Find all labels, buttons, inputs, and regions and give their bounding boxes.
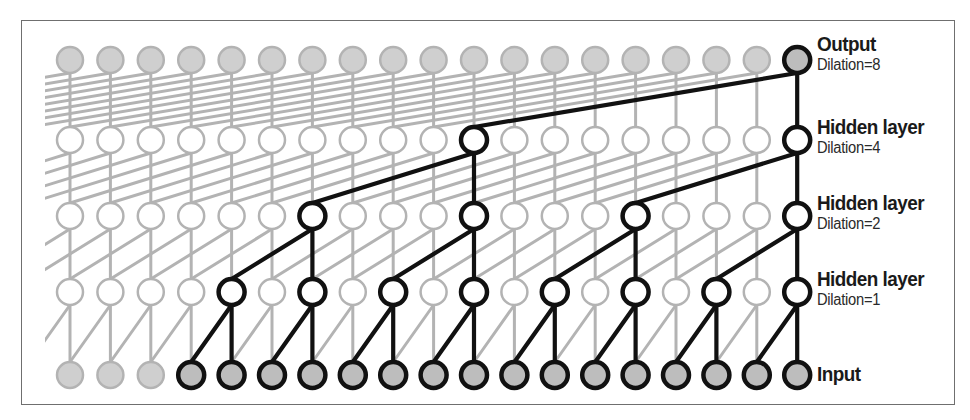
- hidden4-node: [421, 127, 447, 153]
- active-input-node: [542, 362, 568, 388]
- output-node: [663, 47, 689, 73]
- hidden2-node: [178, 203, 204, 229]
- hidden4-node: [380, 127, 406, 153]
- active-hidden1-node: [380, 279, 406, 305]
- hidden2-node: [703, 203, 729, 229]
- hidden2-node: [501, 203, 527, 229]
- output-node: [623, 47, 649, 73]
- hidden2-node: [138, 203, 164, 229]
- active-hidden4-node: [784, 127, 810, 153]
- hidden4-node: [340, 127, 366, 153]
- output-node: [542, 47, 568, 73]
- hidden4-node: [138, 127, 164, 153]
- input-node: [57, 362, 83, 388]
- label-output: Output Dilation=8: [817, 33, 886, 75]
- diagram-canvas: Output Dilation=8 Hidden layer Dilation=…: [0, 0, 970, 420]
- hidden2-node: [57, 203, 83, 229]
- hidden4-node: [582, 127, 608, 153]
- hidden4-node: [501, 127, 527, 153]
- active-input-node: [421, 362, 447, 388]
- active-input-node: [461, 362, 487, 388]
- hidden1-node: [138, 279, 164, 305]
- active-input-node: [299, 362, 325, 388]
- hidden4-node: [178, 127, 204, 153]
- hidden4-node: [623, 127, 649, 153]
- active-input-node: [340, 362, 366, 388]
- active-hidden2-node: [623, 203, 649, 229]
- active-hidden1-node: [703, 279, 729, 305]
- active-hidden1-node: [299, 279, 325, 305]
- active-hidden1-node: [623, 279, 649, 305]
- active-input-node: [380, 362, 406, 388]
- active-input-node: [744, 362, 770, 388]
- active-hidden2-node: [299, 203, 325, 229]
- active-input-node: [784, 362, 810, 388]
- output-node: [703, 47, 729, 73]
- layer-dilation: Dilation=1: [817, 290, 926, 310]
- hidden2-node: [259, 203, 285, 229]
- label-hidden-dilation-2: Hidden layer Dilation=2: [817, 192, 936, 234]
- layer-dilation: Dilation=2: [817, 214, 926, 234]
- label-hidden-dilation-1: Hidden layer Dilation=1: [817, 268, 936, 310]
- output-node: [57, 47, 83, 73]
- hidden4-node: [542, 127, 568, 153]
- hidden2-node: [380, 203, 406, 229]
- active-hidden1-node: [219, 279, 245, 305]
- hidden1-node: [97, 279, 123, 305]
- active-input-node: [582, 362, 608, 388]
- layer-dilation: Dilation=8: [817, 55, 880, 75]
- layer-dilation: Dilation=4: [817, 138, 926, 158]
- active-input-node: [703, 362, 729, 388]
- label-input: Input: [817, 363, 865, 385]
- hidden4-node: [299, 127, 325, 153]
- active-input-node: [259, 362, 285, 388]
- hidden2-node: [582, 203, 608, 229]
- hidden2-node: [542, 203, 568, 229]
- hidden2-node: [340, 203, 366, 229]
- label-hidden-dilation-4: Hidden layer Dilation=4: [817, 116, 936, 158]
- hidden1-node: [178, 279, 204, 305]
- output-node: [138, 47, 164, 73]
- active-input-node: [501, 362, 527, 388]
- hidden1-node: [421, 279, 447, 305]
- active-input-node: [623, 362, 649, 388]
- output-node: [299, 47, 325, 73]
- layer-title: Hidden layer: [817, 192, 924, 214]
- active-input-node: [219, 362, 245, 388]
- hidden4-node: [703, 127, 729, 153]
- output-node: [259, 47, 285, 73]
- hidden1-node: [259, 279, 285, 305]
- active-hidden2-node: [461, 203, 487, 229]
- output-node: [744, 47, 770, 73]
- hidden2-node: [219, 203, 245, 229]
- active-hidden1-node: [784, 279, 810, 305]
- active-hidden4-node: [461, 127, 487, 153]
- hidden4-node: [219, 127, 245, 153]
- hidden1-node: [340, 279, 366, 305]
- output-node: [340, 47, 366, 73]
- hidden4-node: [57, 127, 83, 153]
- active-output-node: [784, 47, 810, 73]
- output-node: [461, 47, 487, 73]
- output-node: [97, 47, 123, 73]
- hidden2-node: [97, 203, 123, 229]
- active-hidden2-node: [784, 203, 810, 229]
- active-input-node: [663, 362, 689, 388]
- active-input-node: [178, 362, 204, 388]
- hidden2-node: [663, 203, 689, 229]
- hidden2-node: [421, 203, 447, 229]
- hidden1-node: [663, 279, 689, 305]
- output-node: [380, 47, 406, 73]
- hidden1-node: [501, 279, 527, 305]
- hidden4-node: [744, 127, 770, 153]
- layer-title: Hidden layer: [817, 116, 924, 138]
- hidden4-node: [663, 127, 689, 153]
- output-node: [178, 47, 204, 73]
- input-node: [138, 362, 164, 388]
- output-node: [582, 47, 608, 73]
- output-node: [421, 47, 447, 73]
- output-node: [501, 47, 527, 73]
- active-hidden1-node: [461, 279, 487, 305]
- hidden4-node: [259, 127, 285, 153]
- layer-title: Hidden layer: [817, 268, 924, 290]
